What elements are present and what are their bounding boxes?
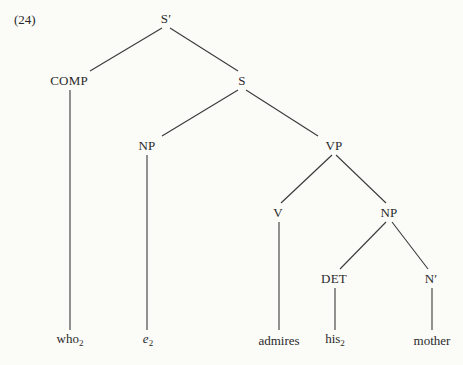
index-subscript: 2 <box>79 338 84 348</box>
node-label: V <box>273 205 283 220</box>
node-label: DET <box>321 271 347 286</box>
leaf-label: admires <box>258 333 299 348</box>
tree-edge <box>170 28 238 71</box>
leaf-label: his <box>325 331 340 346</box>
leaf-label: who <box>57 331 79 346</box>
leaf-label: mother <box>414 333 451 348</box>
tree-leaf-who: who2 <box>57 332 84 348</box>
tree-edge <box>281 155 332 203</box>
tree-node-v: V <box>273 206 283 219</box>
tree-edge <box>340 222 386 269</box>
node-label: NP <box>380 205 397 220</box>
tree-leaf-admires: admires <box>258 334 299 347</box>
index-subscript: 2 <box>340 338 345 348</box>
index-subscript: 2 <box>149 338 154 348</box>
node-label: N <box>425 271 435 286</box>
tree-node-vp: VP <box>325 139 342 152</box>
node-label: S <box>238 73 245 88</box>
tree-leaf-e: e2 <box>143 332 153 348</box>
tree-node-s: S <box>238 74 245 87</box>
tree-edge <box>392 222 428 269</box>
tree-node-det: DET <box>321 272 347 285</box>
node-label: VP <box>325 138 342 153</box>
prime-mark: ′ <box>168 11 171 26</box>
tree-leaf-mother: mother <box>414 334 451 347</box>
tree-leaf-his: his2 <box>325 332 345 348</box>
tree-edge <box>246 90 318 136</box>
prime-mark: ′ <box>434 271 437 286</box>
tree-node-np2: NP <box>380 206 397 219</box>
tree-edges <box>0 0 463 365</box>
node-label: NP <box>138 138 155 153</box>
tree-node-np1: NP <box>138 139 155 152</box>
tree-edge <box>162 90 238 136</box>
node-label: COMP <box>50 73 88 88</box>
tree-node-sbar: S′ <box>161 12 171 25</box>
tree-edge <box>336 155 386 203</box>
tree-edge <box>90 28 162 71</box>
tree-node-nbar: N′ <box>425 272 438 285</box>
tree-node-comp: COMP <box>50 74 88 87</box>
